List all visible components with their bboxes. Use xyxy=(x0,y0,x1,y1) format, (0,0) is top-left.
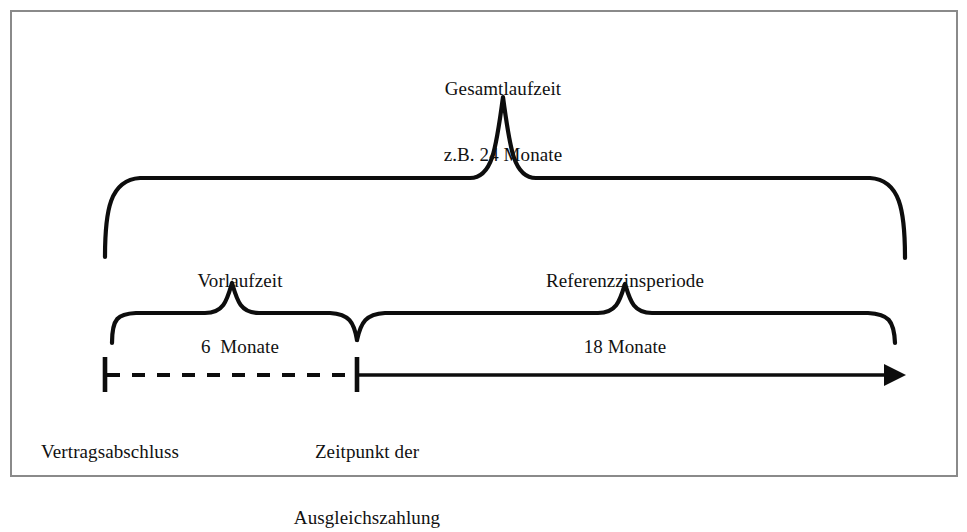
label-reference-period-line1: Referenzzinsperiode xyxy=(465,270,785,292)
label-lead-time-line1: Vorlaufzeit xyxy=(80,270,400,292)
label-total-term-line1: Gesamtlaufzeit xyxy=(343,78,663,100)
label-total-term: Gesamtlaufzeit z.B. 24 Monate xyxy=(343,34,663,210)
label-settlement-date: Zeitpunkt der Ausgleichszahlung xyxy=(217,397,517,532)
label-lead-time: Vorlaufzeit 6 Monate xyxy=(80,226,400,402)
label-reference-period-line2: 18 Monate xyxy=(465,336,785,358)
label-settlement-date-line1: Zeitpunkt der xyxy=(217,441,517,463)
label-total-term-line2: z.B. 24 Monate xyxy=(343,144,663,166)
label-settlement-date-line2: Ausgleichszahlung xyxy=(217,507,517,529)
label-lead-time-line2: 6 Monate xyxy=(80,336,400,358)
label-reference-period: Referenzzinsperiode 18 Monate xyxy=(465,226,785,402)
